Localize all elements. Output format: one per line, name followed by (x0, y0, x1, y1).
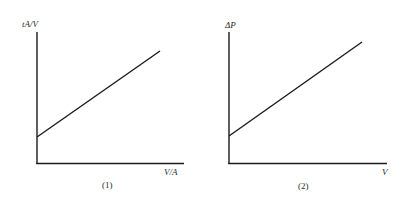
figure-caption: (1) (102, 181, 113, 190)
y-axis-label: ΔP (225, 21, 236, 30)
data-line (37, 51, 160, 137)
figure-caption: (2) (298, 182, 309, 191)
plot-2 (205, 0, 411, 203)
data-line (229, 42, 362, 136)
x-axis-label: V/A (164, 168, 178, 177)
x-axis-label: V (382, 168, 388, 177)
figure-2: ΔP V (2) (205, 0, 411, 203)
figure-1: tA/V V/A (1) (0, 0, 205, 203)
y-axis-label: tA/V (22, 20, 38, 29)
